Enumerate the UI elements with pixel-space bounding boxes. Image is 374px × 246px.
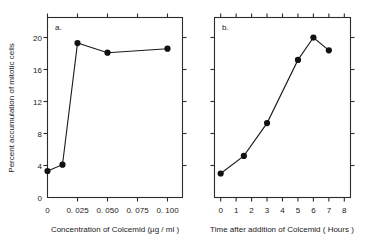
x-tick-label: 0 [218,206,223,215]
panel-b-x-axis-title: Time after addition of Colcemid ( Hours … [210,225,354,234]
two-panel-line-chart: Percent accumulation of mitotic cells 04… [0,0,374,246]
data-point [104,50,110,56]
data-point [295,57,301,63]
panel-a: a. 00. 0250. 0500. 0750. 100 Concentrati… [44,14,187,235]
x-tick-label: 0 [45,206,50,215]
x-tick-label: 3 [265,206,270,215]
panel-b: b. 012345678 Time after addition of Colc… [210,14,354,235]
x-tick-label: 0. 100 [156,206,179,215]
panel-b-label: b. [222,23,229,32]
y-tick-label: 0 [38,194,43,203]
y-tick-label: 20 [33,34,42,43]
x-tick-label: 5 [296,206,301,215]
x-tick-label: 4 [280,206,285,215]
x-tick-label: 0. 075 [126,206,149,215]
x-tick-label: 0. 025 [66,206,89,215]
x-tick-label: 0. 050 [96,206,119,215]
data-point [74,40,80,46]
panel-a-frame [48,18,183,198]
figure-container: Percent accumulation of mitotic cells 04… [0,0,374,246]
panel-b-frame [215,18,351,198]
panel-b-ticks [211,14,355,202]
y-tick-label: 4 [38,162,43,171]
data-point [44,168,50,174]
data-point [59,162,65,168]
data-point [164,46,170,52]
y-tick-label: 12 [33,98,42,107]
panel-a-series-line [48,43,168,171]
x-tick-label: 6 [311,206,316,215]
panel-b-series-line [221,38,329,174]
panel-a-ticks [44,14,187,202]
y-tick-label: 8 [38,130,43,139]
panel-b-data-points [218,34,332,176]
x-tick-label: 8 [342,206,347,215]
y-tick-label: 16 [33,66,42,75]
data-point [218,170,224,176]
x-tick-label: 1 [234,206,239,215]
x-tick-label: 2 [249,206,254,215]
y-axis-title: Percent accumulation of mitotic cells [7,43,16,172]
x-tick-label: 7 [327,206,332,215]
panel-a-label: a. [55,23,62,32]
data-point [241,153,247,159]
data-point [310,34,316,40]
y-axis-tick-labels: 048121620 [33,34,42,203]
data-point [326,47,332,53]
data-point [264,120,270,126]
panel-a-x-tick-labels: 00. 0250. 0500. 0750. 100 [45,206,179,215]
panel-b-x-tick-labels: 012345678 [218,206,347,215]
panel-a-x-axis-title: Concentration of Colcemid (µg / ml ) [51,225,180,234]
